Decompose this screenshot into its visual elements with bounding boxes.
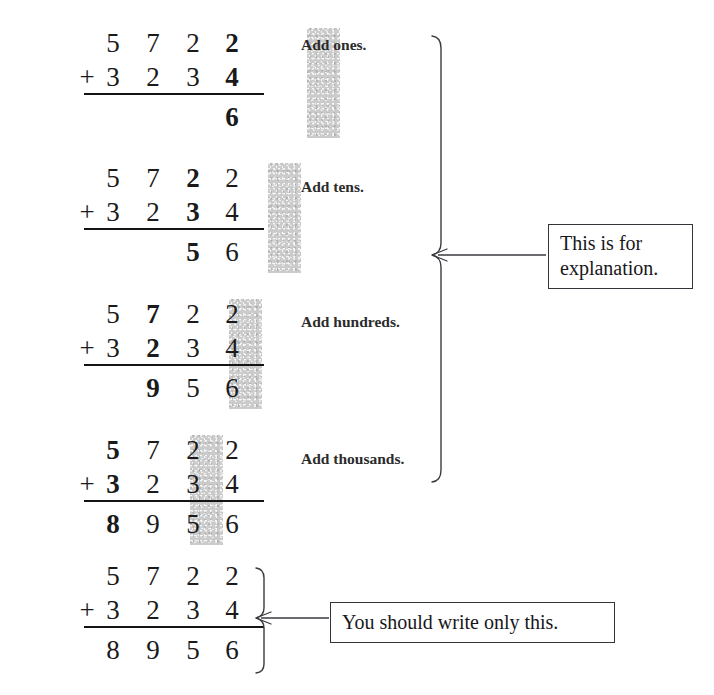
final-callout-text: You should write only this.	[342, 610, 603, 635]
digit-hundreds: 2	[138, 466, 168, 502]
sum-digit-hundreds: 9	[138, 370, 168, 406]
column-addition-1: 5 7 2 2 + 3 2 3 4 6	[76, 25, 286, 145]
digit-thousands: 3	[98, 466, 128, 502]
addition-step-block-4: 5 7 2 2 + 3 2 3 4 8 9 5 6	[76, 432, 286, 552]
digit-tens: 3	[178, 592, 208, 628]
plus-sign: +	[76, 466, 98, 502]
digit-tens: 3	[178, 330, 208, 366]
addend-row-bottom: + 3 2 3 4	[76, 466, 286, 502]
sum-digit-thousands: 8	[98, 506, 128, 542]
plus-sign: +	[76, 330, 98, 366]
explanation-line-2: explanation.	[560, 256, 681, 281]
digit-tens: 2	[178, 296, 208, 332]
addition-step-block-3: 5 7 2 2 + 3 2 3 4 9 5 6	[76, 296, 286, 416]
digit-ones: 2	[217, 296, 247, 332]
sum-digit-thousands: 8	[98, 632, 128, 668]
digit-thousands: 5	[98, 25, 128, 61]
digit-thousands: 5	[98, 160, 128, 196]
sum-rule-line	[84, 626, 264, 628]
addition-step-block-2: 5 7 2 2 + 3 2 3 4 5 6	[76, 160, 286, 280]
digit-thousands: 5	[98, 432, 128, 468]
addend-row-bottom: + 3 2 3 4	[76, 330, 286, 366]
sum-digit-ones: 6	[217, 370, 247, 406]
digit-hundreds: 7	[138, 296, 168, 332]
plus-sign: +	[76, 592, 98, 628]
sum-rule-line	[84, 93, 264, 95]
sum-row: 9 5 6	[76, 370, 286, 406]
sum-digit-tens: 5	[178, 506, 208, 542]
digit-hundreds: 2	[138, 194, 168, 230]
digit-tens: 3	[178, 466, 208, 502]
sum-rule-line	[84, 364, 264, 366]
sum-digit-ones: 6	[217, 632, 247, 668]
column-addition-final: 5 7 2 2 + 3 2 3 4 8 9 5 6	[76, 558, 286, 678]
final-callout-box: You should write only this.	[330, 602, 615, 643]
sum-digit-ones: 6	[217, 506, 247, 542]
explanation-callout-box: This is for explanation.	[548, 224, 693, 289]
sum-row: 8 9 5 6	[76, 632, 286, 668]
sum-digit-hundreds: 9	[138, 506, 168, 542]
step-label-add-hundreds: Add hundreds.	[301, 313, 400, 331]
digit-thousands: 3	[98, 194, 128, 230]
sum-row: 6	[76, 99, 286, 135]
digit-ones: 4	[217, 330, 247, 366]
digit-hundreds: 7	[138, 160, 168, 196]
plus-sign: +	[76, 194, 98, 230]
plus-sign: +	[76, 59, 98, 95]
digit-tens: 3	[178, 59, 208, 95]
step-label-add-ones: Add ones.	[301, 36, 366, 54]
sum-digit-tens: 5	[178, 370, 208, 406]
addend-row-top: 5 7 2 2	[76, 160, 286, 196]
addend-row-bottom: + 3 2 3 4	[76, 59, 286, 95]
digit-hundreds: 2	[138, 592, 168, 628]
digit-ones: 4	[217, 466, 247, 502]
digit-thousands: 5	[98, 296, 128, 332]
digit-thousands: 3	[98, 592, 128, 628]
addend-row-top: 5 7 2 2	[76, 25, 286, 61]
digit-thousands: 3	[98, 330, 128, 366]
addend-row-bottom: + 3 2 3 4	[76, 592, 286, 628]
digit-ones: 2	[217, 160, 247, 196]
digit-tens: 2	[178, 160, 208, 196]
sum-row: 5 6	[76, 234, 286, 270]
sum-digit-ones: 6	[217, 99, 247, 135]
sum-digit-tens: 5	[178, 632, 208, 668]
step-label-add-thousands: Add thousands.	[301, 450, 404, 468]
digit-hundreds: 7	[138, 25, 168, 61]
explanation-arrow-head	[432, 249, 447, 261]
digit-ones: 2	[217, 558, 247, 594]
digit-thousands: 5	[98, 558, 128, 594]
digit-hundreds: 7	[138, 432, 168, 468]
digit-ones: 2	[217, 432, 247, 468]
digit-ones: 4	[217, 592, 247, 628]
digit-ones: 4	[217, 194, 247, 230]
step-label-add-tens: Add tens.	[301, 178, 364, 196]
column-addition-3: 5 7 2 2 + 3 2 3 4 9 5 6	[76, 296, 286, 416]
sum-row: 8 9 5 6	[76, 506, 286, 542]
addend-row-top: 5 7 2 2	[76, 296, 286, 332]
sum-digit-hundreds: 9	[138, 632, 168, 668]
worksheet-page: 5 7 2 2 + 3 2 3 4 6 Add ones.	[0, 0, 714, 695]
digit-tens: 3	[178, 194, 208, 230]
addend-row-top: 5 7 2 2	[76, 558, 286, 594]
digit-hundreds: 2	[138, 330, 168, 366]
sum-digit-tens: 5	[178, 234, 208, 270]
digit-hundreds: 7	[138, 558, 168, 594]
addend-row-top: 5 7 2 2	[76, 432, 286, 468]
digit-ones: 2	[217, 25, 247, 61]
digit-tens: 2	[178, 25, 208, 61]
sum-digit-ones: 6	[217, 234, 247, 270]
column-addition-4: 5 7 2 2 + 3 2 3 4 8 9 5 6	[76, 432, 286, 552]
digit-hundreds: 2	[138, 59, 168, 95]
sum-rule-line	[84, 228, 264, 230]
sum-rule-line	[84, 500, 264, 502]
column-addition-2: 5 7 2 2 + 3 2 3 4 5 6	[76, 160, 286, 280]
digit-tens: 2	[178, 558, 208, 594]
addend-row-bottom: + 3 2 3 4	[76, 194, 286, 230]
digit-thousands: 3	[98, 59, 128, 95]
digit-tens: 2	[178, 432, 208, 468]
explanation-line-1: This is for	[560, 231, 681, 256]
digit-ones: 4	[217, 59, 247, 95]
large-brace	[432, 36, 441, 482]
addition-step-block-1: 5 7 2 2 + 3 2 3 4 6	[76, 25, 286, 145]
